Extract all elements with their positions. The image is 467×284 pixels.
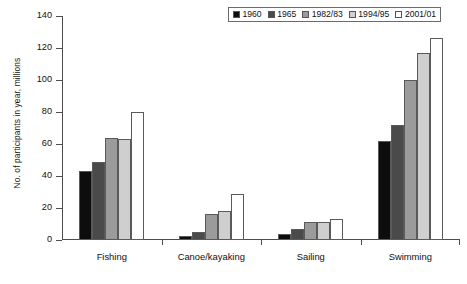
y-tick-label: 60 [42,138,52,148]
bar [317,222,330,240]
x-axis-category-label: Sailing [261,251,361,262]
bar [391,125,404,240]
bar [118,139,131,240]
x-tick [162,240,163,245]
bar [278,234,291,240]
y-tick-label: 100 [37,74,52,84]
x-axis-category-label: Fishing [62,251,162,262]
x-axis-category-label: Swimming [361,251,461,262]
bar [430,38,443,240]
plot-area: 020406080100120140 FishingCanoe/kayaking… [62,16,460,240]
bar [291,229,304,240]
x-tick [459,240,460,245]
y-tick-label: 120 [37,42,52,52]
bar [92,162,105,240]
bar-groups: FishingCanoe/kayakingSailingSwimming [62,16,460,240]
bar-group: Canoe/kayaking [162,16,262,240]
y-tick-label: 40 [42,170,52,180]
y-tick-label: 0 [47,234,52,244]
bar [131,112,144,240]
y-tick-label: 140 [37,10,52,20]
bar [79,171,92,240]
bar [404,80,417,240]
bar [192,232,205,240]
bar [179,236,192,240]
bar-group: Fishing [62,16,162,240]
y-tick: 0 [56,240,62,241]
x-tick [261,240,262,245]
bar [304,222,317,240]
bar [330,219,343,240]
bar-group: Swimming [361,16,461,240]
y-tick-label: 20 [42,202,52,212]
x-tick [361,240,362,245]
bar [378,141,391,240]
bar [105,138,118,240]
bar-group: Sailing [261,16,361,240]
y-tick-label: 80 [42,106,52,116]
bar [218,211,231,240]
y-axis-title: No. of participants in year, millions [12,18,22,228]
bar [417,53,430,240]
bar [231,194,244,240]
bar [205,214,218,240]
chart-figure: No. of participants in year, millions 19… [0,0,467,284]
x-axis-category-label: Canoe/kayaking [162,251,262,262]
